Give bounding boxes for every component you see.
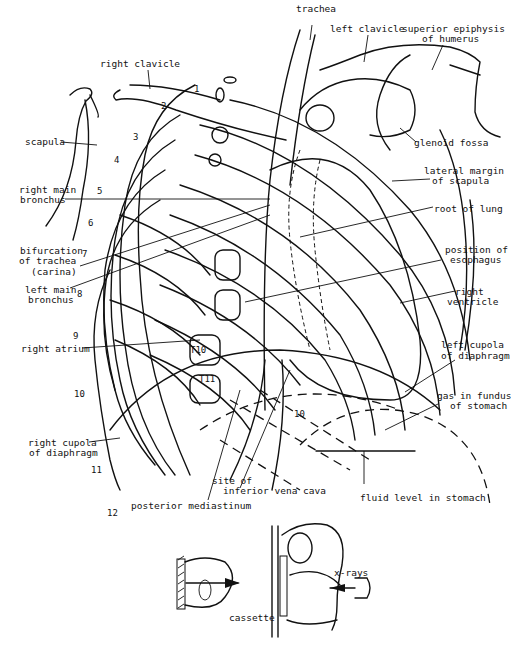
rib-number-10-left: 10 bbox=[294, 409, 305, 419]
rib-number-11: 11 bbox=[91, 465, 102, 475]
label-cassette: cassette bbox=[229, 612, 275, 623]
label-left-cupola-1: left cupola bbox=[441, 339, 504, 350]
rib-number-10: 10 bbox=[74, 389, 85, 399]
vertebra-t11: T11 bbox=[199, 374, 215, 384]
rib-number-3: 3 bbox=[133, 132, 138, 142]
label-fluid-level: fluid level in stomach bbox=[360, 492, 486, 503]
label-gas-fundus-2: of stomach bbox=[450, 400, 507, 411]
rib-number-2: 2 bbox=[161, 101, 166, 111]
label-lateral-margin-2: of scapula bbox=[432, 175, 489, 186]
heart-drawing bbox=[270, 159, 421, 400]
label-left-main-bronchus-2: bronchus bbox=[28, 294, 74, 305]
rib-number-6: 6 bbox=[88, 218, 93, 228]
label-position-esophagus-2: esophagus bbox=[450, 254, 501, 265]
label-left-cupola-2: of diaphragm bbox=[441, 350, 510, 361]
diagram-drawing bbox=[0, 0, 511, 645]
vertebra-t10: T10 bbox=[190, 345, 206, 355]
label-site-ivc-2: inferior vena cava bbox=[223, 485, 326, 496]
esophagus-drawing bbox=[289, 150, 310, 350]
label-root-of-lung: root of lung bbox=[434, 203, 503, 214]
rib-number-4: 4 bbox=[114, 155, 119, 165]
label-right-clavicle: right clavicle bbox=[100, 58, 180, 69]
label-right-atrium: right atrium bbox=[21, 343, 90, 354]
rib-number-7: 7 bbox=[82, 249, 87, 259]
label-bifurcation-2: of trachea bbox=[19, 255, 76, 266]
label-x-rays: x-rays bbox=[334, 567, 368, 578]
label-trachea: trachea bbox=[296, 3, 336, 14]
shoulder-left-drawing bbox=[300, 45, 500, 150]
rib-number-9: 9 bbox=[73, 331, 78, 341]
trachea-drawing bbox=[264, 30, 300, 410]
label-right-main-bronchus-2: bronchus bbox=[20, 194, 66, 205]
rib-number-12: 12 bbox=[107, 508, 118, 518]
label-scapula: scapula bbox=[25, 136, 65, 147]
label-right-ventricle-2: ventricle bbox=[447, 296, 498, 307]
rib-number-8: 8 bbox=[77, 289, 82, 299]
label-right-cupola-2: of diaphragm bbox=[29, 447, 98, 458]
ribs-left bbox=[110, 100, 470, 440]
label-posterior-mediastinum: posterior mediastinum bbox=[131, 500, 251, 511]
right-clavicle-drawing bbox=[114, 90, 286, 140]
anatomy-diagram: trachea left clavicle superior epiphysis… bbox=[0, 0, 511, 645]
rib-number-1: 1 bbox=[194, 84, 199, 94]
rib-number-5: 5 bbox=[97, 186, 102, 196]
label-glenoid-fossa: glenoid fossa bbox=[414, 137, 488, 148]
label-left-clavicle: left clavicle bbox=[330, 23, 404, 34]
ribs-right bbox=[94, 85, 195, 490]
label-superior-epiphysis-2: of humerus bbox=[422, 33, 479, 44]
label-bifurcation-3: (carina) bbox=[31, 266, 77, 277]
